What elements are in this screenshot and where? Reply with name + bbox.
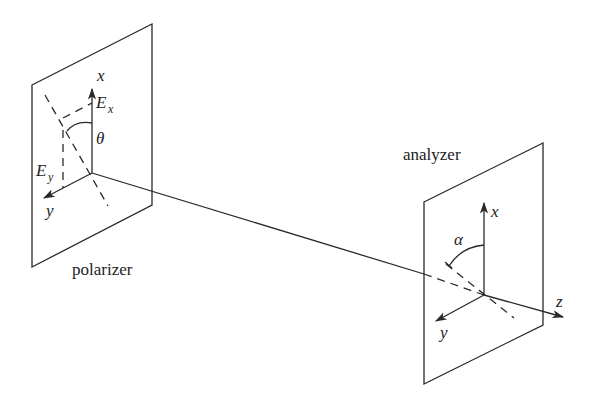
- theta-arc: [67, 122, 92, 131]
- polarizer-label: polarizer: [72, 260, 133, 279]
- ex-projection: [63, 103, 92, 118]
- beam-path-hidden: [424, 274, 484, 295]
- ey-label: E: [35, 161, 47, 180]
- analyzer-y-label: y: [438, 323, 448, 342]
- analyzer-label: analyzer: [403, 145, 461, 164]
- polarizer-x-label: x: [96, 66, 105, 85]
- ey-subscript: y: [47, 170, 54, 184]
- polarizer-y-label: y: [44, 201, 54, 220]
- analyzer-y-axis: [436, 295, 484, 321]
- beam-path: [92, 173, 424, 274]
- theta-label: θ: [96, 129, 104, 148]
- alpha-label: α: [454, 230, 464, 249]
- polarizer-group: x E x θ E y y polarizer: [32, 24, 152, 279]
- analyzer-z-label: z: [555, 292, 563, 311]
- ex-label: E: [95, 93, 107, 112]
- analyzer-x-label: x: [490, 202, 499, 221]
- analyzer-group: x α z y analyzer: [403, 143, 563, 384]
- analyzer-z-axis: [484, 295, 563, 317]
- polarization-diagram: x E x θ E y y polarizer x α z y analyzer: [0, 0, 592, 400]
- ex-subscript: x: [107, 102, 114, 116]
